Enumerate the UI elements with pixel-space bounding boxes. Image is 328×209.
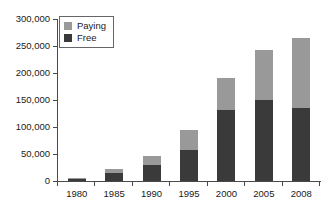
bar-group — [105, 169, 123, 181]
x-tick-mark — [244, 182, 245, 186]
bar-segment-free — [217, 110, 235, 181]
bar-segment-free — [68, 179, 86, 181]
bar-segment-free — [105, 173, 123, 181]
x-tick-mark — [132, 182, 133, 186]
legend-label-paying: Paying — [77, 21, 106, 31]
y-tick-label: 250,000 — [16, 41, 50, 51]
bar-segment-paying — [105, 169, 123, 173]
bar-segment-paying — [68, 178, 86, 179]
y-tick-label: 300,000 — [16, 14, 50, 24]
bar-segment-paying — [143, 156, 161, 165]
bar-segment-free — [143, 165, 161, 181]
y-tick-label: 150,000 — [16, 95, 50, 105]
x-tick-mark — [57, 182, 58, 186]
x-tick-label: 1995 — [170, 189, 207, 199]
x-tick-mark — [169, 182, 170, 186]
x-tick-label: 2008 — [283, 189, 320, 199]
x-tick-label: 1990 — [133, 189, 170, 199]
y-tick-label: 0 — [45, 176, 50, 186]
legend-swatch-free-icon — [64, 34, 72, 42]
bar-segment-free — [180, 150, 198, 181]
x-tick-mark — [207, 182, 208, 186]
y-tick-mark — [53, 46, 57, 47]
y-tick-mark — [53, 100, 57, 101]
y-tick-mark — [53, 73, 57, 74]
legend: Paying Free — [59, 16, 114, 48]
bar-group — [255, 50, 273, 181]
y-tick-mark — [53, 127, 57, 128]
bar-group — [68, 178, 86, 181]
x-tick-label: 2005 — [245, 189, 282, 199]
legend-label-free: Free — [77, 33, 97, 43]
bar-group — [143, 156, 161, 181]
stacked-bar-chart: 050,000100,000150,000200,000250,000300,0… — [0, 0, 328, 209]
bar-segment-paying — [217, 78, 235, 110]
x-tick-label: 1980 — [58, 189, 95, 199]
x-tick-label: 1985 — [95, 189, 132, 199]
legend-item-paying: Paying — [64, 20, 106, 32]
legend-item-free: Free — [64, 32, 106, 44]
bar-segment-free — [255, 100, 273, 181]
y-tick-label: 50,000 — [21, 149, 50, 159]
x-tick-mark — [319, 182, 320, 186]
y-tick-mark — [53, 154, 57, 155]
y-tick-label: 200,000 — [16, 68, 50, 78]
x-tick-label: 2000 — [208, 189, 245, 199]
x-tick-mark — [282, 182, 283, 186]
legend-swatch-paying-icon — [64, 22, 72, 30]
bar-group — [292, 38, 310, 181]
x-tick-mark — [94, 182, 95, 186]
bar-segment-paying — [255, 50, 273, 100]
bar-group — [180, 130, 198, 181]
bar-segment-paying — [292, 38, 310, 108]
bar-segment-free — [292, 108, 310, 181]
y-tick-mark — [53, 19, 57, 20]
bar-segment-paying — [180, 130, 198, 150]
y-tick-label: 100,000 — [16, 122, 50, 132]
bar-group — [217, 78, 235, 181]
